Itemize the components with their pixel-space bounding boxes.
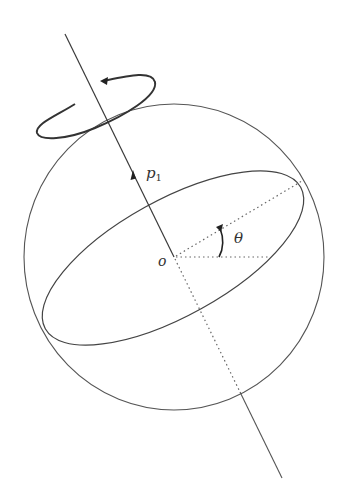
axis-label-p1: p1 — [146, 164, 162, 183]
equator-ellipse — [17, 136, 329, 379]
sphere-rotation-diagram: p1 o θ — [0, 0, 344, 503]
rotation-axis-hidden — [175, 259, 240, 392]
theta-label: θ — [234, 229, 243, 247]
theta-angle-arc — [219, 228, 223, 257]
rotation-axis-lower — [240, 392, 282, 478]
p1-arrowhead-icon — [131, 170, 137, 180]
origin-label: o — [158, 253, 166, 269]
rotation-axis-upper — [65, 34, 174, 257]
rotation-arrowhead-icon — [100, 77, 108, 85]
rotation-arrow-arc — [37, 75, 155, 138]
